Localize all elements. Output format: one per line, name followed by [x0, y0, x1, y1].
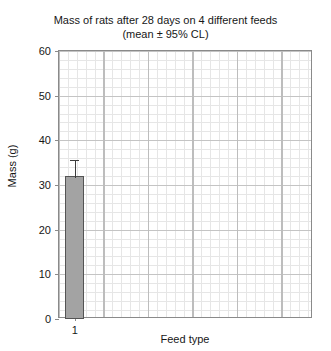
chart-title: Mass of rats after 28 days on 4 differen… — [0, 13, 331, 27]
y-tick-label: 60 — [17, 46, 51, 56]
plot-area: 0102030405060 1 — [58, 50, 312, 318]
y-tick-mark — [55, 230, 59, 231]
y-tick-mark — [55, 51, 59, 52]
y-tick-label: 10 — [17, 269, 51, 279]
y-tick-mark — [55, 274, 59, 275]
chart-title-block: Mass of rats after 28 days on 4 differen… — [0, 13, 331, 41]
x-axis-label: Feed type — [58, 333, 312, 345]
chart-subtitle: (mean ± 95% CL) — [0, 27, 331, 41]
y-tick-mark — [55, 96, 59, 97]
bar — [65, 176, 84, 319]
chart-figure: Mass of rats after 28 days on 4 differen… — [0, 0, 331, 351]
error-bar-cap — [70, 160, 79, 161]
y-tick-mark — [55, 140, 59, 141]
y-tick-label: 30 — [17, 180, 51, 190]
y-tick-label: 40 — [17, 135, 51, 145]
y-tick-mark — [55, 319, 59, 320]
error-bar-line — [75, 160, 76, 178]
y-tick-label: 50 — [17, 91, 51, 101]
y-tick-label: 0 — [17, 314, 51, 324]
major-gridlines — [59, 51, 311, 317]
y-tick-label: 20 — [17, 225, 51, 235]
minor-gridlines — [59, 51, 311, 317]
y-tick-mark — [55, 185, 59, 186]
